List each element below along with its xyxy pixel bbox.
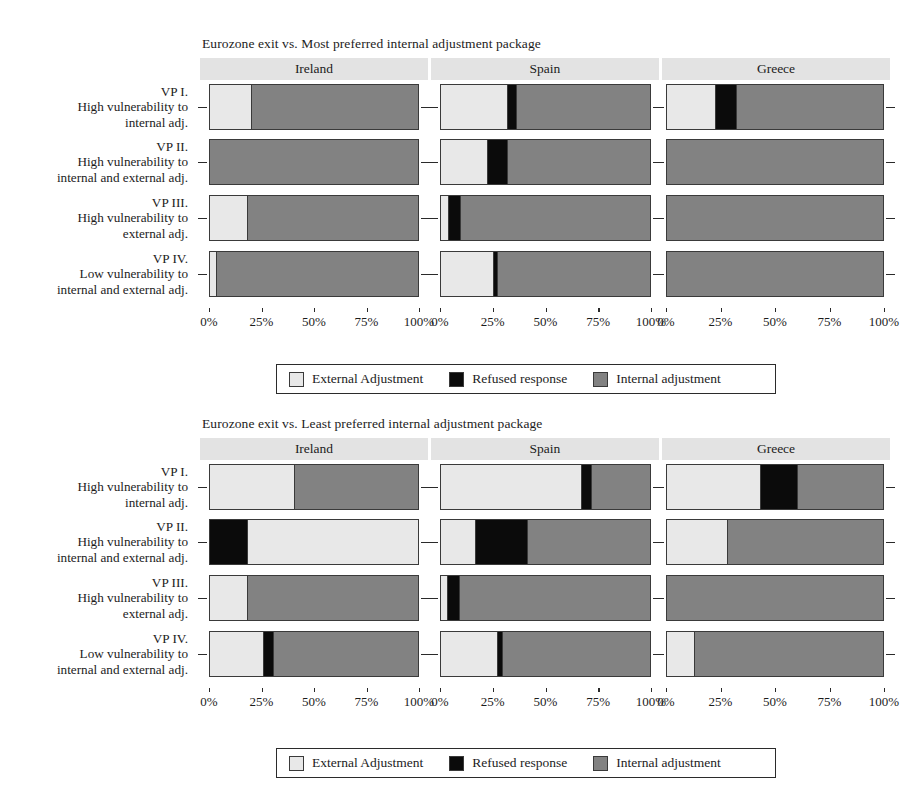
stacked-bar[interactable] xyxy=(440,251,651,297)
legend-top: External AdjustmentRefused responseInter… xyxy=(276,364,776,394)
y-tick-right xyxy=(886,218,895,219)
stacked-bar[interactable] xyxy=(440,195,651,241)
facet-label-greece: Greece xyxy=(662,58,890,80)
bar-segment-internal xyxy=(591,465,651,509)
x-tick-label: 25% xyxy=(481,694,505,710)
chart-title-top: Eurozone exit vs. Most preferred interna… xyxy=(202,36,541,52)
stacked-bar[interactable] xyxy=(209,464,419,510)
y-tick-left xyxy=(429,107,438,108)
x-tick-label: 0% xyxy=(200,694,217,710)
y-tick-left xyxy=(429,654,438,655)
stacked-bar[interactable] xyxy=(440,575,651,621)
stacked-bar[interactable] xyxy=(209,575,419,621)
legend-label: Refused response xyxy=(472,371,567,387)
stacked-bar[interactable] xyxy=(209,84,419,130)
x-tick-label: 50% xyxy=(534,314,558,330)
bar-row xyxy=(440,575,651,621)
bar-segment-external xyxy=(667,520,727,564)
bar-row xyxy=(440,195,651,241)
legend-swatch-internal-icon xyxy=(593,372,608,387)
stacked-bar[interactable] xyxy=(209,139,419,185)
x-tick-label: 50% xyxy=(302,694,326,710)
bar-segment-internal xyxy=(667,576,883,620)
x-tick xyxy=(209,308,210,312)
bar-segment-internal xyxy=(516,85,651,129)
x-tick xyxy=(546,688,547,692)
x-tick-label: 100% xyxy=(404,694,434,710)
bar-segment-internal xyxy=(527,520,651,564)
x-tick xyxy=(419,308,420,312)
y-tick-left xyxy=(198,218,207,219)
x-tick xyxy=(884,308,885,312)
plot-area-top xyxy=(0,84,922,306)
stacked-bar[interactable] xyxy=(440,519,651,565)
legend-label: External Adjustment xyxy=(312,755,423,771)
bar-row xyxy=(209,84,419,130)
legend-item-refused[interactable]: Refused response xyxy=(449,755,567,771)
legend-item-refused[interactable]: Refused response xyxy=(449,371,567,387)
y-tick-left xyxy=(655,274,664,275)
x-tick xyxy=(314,688,315,692)
x-tick xyxy=(493,308,494,312)
y-tick-left xyxy=(655,654,664,655)
x-tick-label: 100% xyxy=(869,314,899,330)
x-tick-label: 0% xyxy=(200,314,217,330)
bar-segment-external xyxy=(210,85,251,129)
x-tick-label: 75% xyxy=(355,314,379,330)
y-tick-left xyxy=(198,542,207,543)
x-tick xyxy=(419,688,420,692)
stacked-bar[interactable] xyxy=(440,464,651,510)
stacked-bar[interactable] xyxy=(666,631,884,677)
bar-row xyxy=(666,139,884,185)
stacked-bar[interactable] xyxy=(666,195,884,241)
bar-row xyxy=(666,519,884,565)
bar-row xyxy=(440,631,651,677)
y-tick-left xyxy=(655,598,664,599)
legend-item-internal[interactable]: Internal adjustment xyxy=(593,371,721,387)
x-tick xyxy=(721,688,722,692)
stacked-bar[interactable] xyxy=(666,464,884,510)
x-tick xyxy=(598,308,599,312)
y-tick-left xyxy=(655,542,664,543)
bar-segment-internal xyxy=(216,252,419,296)
legend-item-external[interactable]: External Adjustment xyxy=(289,755,423,771)
stacked-bar[interactable] xyxy=(666,575,884,621)
stacked-bar[interactable] xyxy=(666,84,884,130)
stacked-bar[interactable] xyxy=(440,84,651,130)
stacked-bar[interactable] xyxy=(209,251,419,297)
stacked-bar[interactable] xyxy=(209,631,419,677)
bar-segment-external xyxy=(667,85,715,129)
stacked-bar[interactable] xyxy=(666,519,884,565)
stacked-bar[interactable] xyxy=(440,139,651,185)
legend-label: Internal adjustment xyxy=(616,371,721,387)
y-tick-right xyxy=(886,654,895,655)
bar-segment-internal xyxy=(727,520,884,564)
x-tick xyxy=(775,308,776,312)
legend-item-internal[interactable]: Internal adjustment xyxy=(593,755,721,771)
bar-row xyxy=(666,251,884,297)
stacked-bar[interactable] xyxy=(209,195,419,241)
stacked-bar[interactable] xyxy=(666,139,884,185)
bar-segment-refused xyxy=(487,140,509,184)
x-tick-label: 100% xyxy=(869,694,899,710)
stacked-bar[interactable] xyxy=(209,519,419,565)
bar-segment-internal xyxy=(797,465,884,509)
x-tick xyxy=(546,308,547,312)
y-tick-left xyxy=(198,107,207,108)
x-tick xyxy=(367,688,368,692)
stacked-bar[interactable] xyxy=(440,631,651,677)
bar-segment-refused xyxy=(210,520,247,564)
stacked-bar[interactable] xyxy=(666,251,884,297)
bar-segment-internal xyxy=(294,465,419,509)
x-tick xyxy=(367,308,368,312)
y-tick-right xyxy=(886,487,895,488)
bar-segment-external xyxy=(667,465,760,509)
x-tick xyxy=(651,688,652,692)
legend-item-external[interactable]: External Adjustment xyxy=(289,371,423,387)
bar-segment-external xyxy=(210,465,294,509)
panel-greece xyxy=(666,464,884,686)
x-tick-label: 50% xyxy=(763,694,787,710)
plot-area-bottom xyxy=(0,464,922,686)
x-tick-label: 25% xyxy=(481,314,505,330)
facet-label-ireland: Ireland xyxy=(200,438,428,460)
